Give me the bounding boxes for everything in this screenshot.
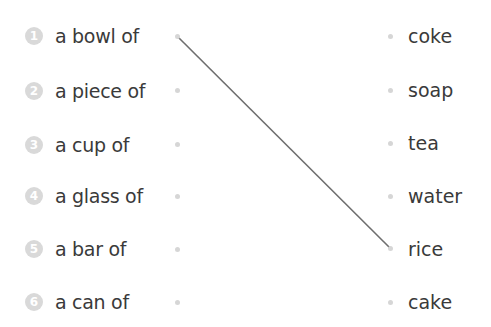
right-label: tea [408,132,439,154]
left-label: a glass of [55,185,143,207]
right-dot-1[interactable] [388,34,393,39]
number-badge: 2 [25,82,43,100]
left-dot-5[interactable] [175,247,180,252]
left-label: a cup of [55,134,129,156]
left-dot-3[interactable] [175,142,180,147]
number-badge: 3 [25,136,43,154]
left-label: a bar of [55,238,126,260]
right-label: coke [408,25,452,47]
right-label: cake [408,291,452,313]
left-dot-1[interactable] [175,34,180,39]
number-badge: 4 [25,187,43,205]
left-dot-4[interactable] [175,194,180,199]
right-dot-6[interactable] [388,300,393,305]
right-label: water [408,185,462,207]
left-label: a piece of [55,80,145,102]
left-label: a can of [55,291,129,313]
right-label: soap [408,79,453,101]
number-badge: 6 [25,293,43,311]
right-dot-2[interactable] [388,88,393,93]
connection-line-bowl-rice[interactable] [177,36,390,248]
right-dot-5[interactable] [388,246,393,251]
left-dot-6[interactable] [175,300,180,305]
number-badge: 5 [25,240,43,258]
left-dot-2[interactable] [175,88,180,93]
right-label: rice [408,238,443,260]
connection-lines [0,0,491,327]
right-dot-3[interactable] [388,141,393,146]
right-dot-4[interactable] [388,194,393,199]
number-badge: 1 [25,27,43,45]
left-label: a bowl of [55,25,139,47]
